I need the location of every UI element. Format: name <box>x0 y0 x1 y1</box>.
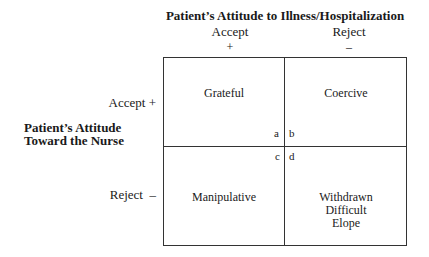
cell-d-line: Elope <box>286 217 406 230</box>
cell-d-text: Withdrawn Difficult Elope <box>286 191 406 230</box>
cell-c-text: Manipulative <box>164 191 284 204</box>
cell-c-corner-label: c <box>275 150 280 162</box>
column-sign-accept: + <box>170 40 290 55</box>
row-header-reject: Reject – <box>16 187 156 203</box>
cell-b-text: Coercive <box>286 87 406 100</box>
row-axis-title: Patient’s Attitude Toward the Nurse <box>24 121 124 147</box>
vertical-divider <box>284 57 285 246</box>
column-header-reject: Reject <box>289 24 409 40</box>
cell-a-text: Grateful <box>164 87 284 100</box>
horizontal-divider <box>163 146 407 147</box>
cell-a-corner-label: a <box>274 127 279 139</box>
column-sign-reject: – <box>289 40 409 55</box>
column-header-accept: Accept <box>170 24 290 40</box>
column-axis-title: Patient’s Attitude to Illness/Hospitaliz… <box>140 8 429 24</box>
row-header-accept: Accept + <box>16 95 156 111</box>
cell-b-corner-label: b <box>289 127 295 139</box>
row-axis-title-line: Toward the Nurse <box>24 134 124 147</box>
cell-d-corner-label: d <box>289 150 295 162</box>
